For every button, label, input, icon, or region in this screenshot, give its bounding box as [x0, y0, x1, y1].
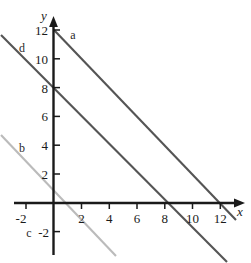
- x-tick-label-4: 4: [106, 211, 113, 226]
- y-tick-label-2: 2: [42, 167, 49, 182]
- y-axis-arrow: [49, 16, 58, 27]
- graph-figure: -2 2 4 6 8 10 12 12 10 8 6 4 2 -2 y x a …: [0, 0, 251, 263]
- x-tick-label-8: 8: [162, 211, 169, 226]
- line-label-c: c: [26, 226, 31, 240]
- y-tick-label-4: 4: [42, 138, 49, 153]
- y-tick-label-12: 12: [35, 23, 48, 38]
- line-label-a: a: [70, 28, 76, 42]
- x-axis-label: x: [236, 204, 243, 219]
- y-axis-label: y: [39, 8, 47, 23]
- y-tick-label-6: 6: [42, 109, 49, 124]
- y-tick-label-neg2: -2: [38, 225, 49, 240]
- x-tick-label-2: 2: [78, 211, 85, 226]
- line-d: [1, 35, 227, 262]
- line-a: [54, 30, 236, 220]
- x-tick-label-6: 6: [134, 211, 141, 226]
- y-tick-label-8: 8: [42, 81, 49, 96]
- line-label-b: b: [19, 141, 25, 155]
- x-tick-label-12: 12: [214, 211, 227, 226]
- x-tick-label-neg2: -2: [16, 211, 27, 226]
- coordinate-plane-svg: -2 2 4 6 8 10 12 12 10 8 6 4 2 -2 y x a …: [0, 0, 251, 263]
- y-tick-label-10: 10: [35, 52, 48, 67]
- line-label-d: d: [19, 41, 25, 55]
- x-tick-label-10: 10: [186, 211, 199, 226]
